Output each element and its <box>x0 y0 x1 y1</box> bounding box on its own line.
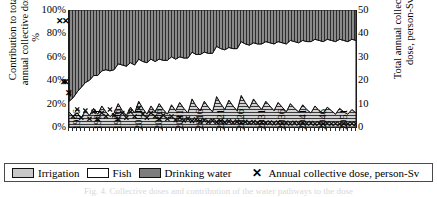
y-axis-right-tick-labels: 50403020100 <box>358 0 380 135</box>
legend-item-fish: Fish <box>87 167 132 179</box>
legend-item-irrigation: Irrigation <box>12 167 80 179</box>
chart-figure: Contribution to total annual collective … <box>0 0 437 197</box>
y-axis-left-tick: 60% <box>47 52 66 63</box>
dose-marker-outside: ✕ <box>62 77 70 87</box>
legend-label-drinking-water: Drinking water <box>165 167 232 179</box>
y-axis-right-tick: 10 <box>358 99 369 110</box>
figure-caption: Fig. 4. Collective doses and contributio… <box>0 186 437 196</box>
chart-legend: Irrigation Fish Drinking water ✕ Annual … <box>4 163 433 182</box>
dose-marker-outside: ✕ <box>65 88 73 98</box>
y-axis-left-tick: 80% <box>47 28 66 39</box>
y-axis-right-tick: 20 <box>358 75 369 86</box>
irrigation-swatch-icon <box>12 168 34 178</box>
y-axis-right-tick: 50 <box>358 5 369 16</box>
y-axis-left-tick: 100% <box>42 5 67 16</box>
cross-marker-icon: ✕ <box>252 166 262 180</box>
legend-item-drinking-water: Drinking water <box>139 167 232 179</box>
y-axis-right-tick: 30 <box>358 52 369 63</box>
legend-label-fish: Fish <box>113 167 132 179</box>
dose-marker-outside: ✕ <box>62 16 70 26</box>
legend-label-irrigation: Irrigation <box>38 167 80 179</box>
drinking-water-swatch-icon <box>139 168 161 178</box>
y-axis-right-tick: 40 <box>358 28 369 39</box>
y-axis-right-title: Total annual collective dose, person-Sv <box>392 0 415 102</box>
x-axis-minor-ticks <box>68 127 355 132</box>
legend-item-annual-dose: ✕ Annual collective dose, person-Sv <box>238 166 419 180</box>
fish-swatch-icon <box>87 168 109 178</box>
y-axis-left-tick: 20% <box>47 99 66 110</box>
legend-label-annual-dose: Annual collective dose, person-Sv <box>268 167 419 179</box>
